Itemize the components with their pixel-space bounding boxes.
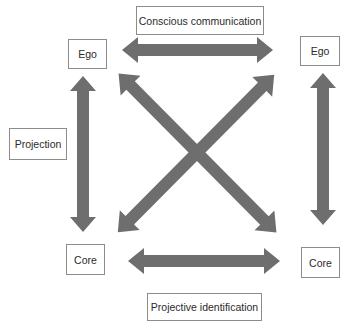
label-projective-identification: Projective identification — [147, 293, 262, 321]
label-projection: Projection — [9, 128, 67, 160]
double-arrow-left — [70, 76, 96, 232]
double-arrow-right — [310, 73, 336, 225]
node-core-right: Core — [301, 247, 340, 278]
node-ego-right: Ego — [300, 36, 340, 66]
label-conscious-communication: Conscious communication — [136, 6, 264, 35]
double-arrow-top — [122, 37, 273, 63]
double-arrow-bottom — [128, 248, 280, 274]
communication-diagram: Conscious communication Ego Ego Projecti… — [0, 0, 353, 331]
node-ego-left: Ego — [68, 39, 107, 69]
node-core-left: Core — [66, 244, 105, 275]
